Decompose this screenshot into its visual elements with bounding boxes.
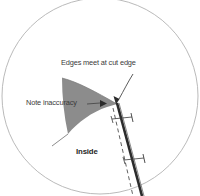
label-inside: Inside (76, 148, 98, 156)
label-note-inaccuracy: Note inaccuracy (26, 99, 77, 106)
cut-edge-joint-diagram: Edges meet at cut edge Note inaccuracy I… (0, 0, 200, 196)
label-edges-meet-at-cut-edge: Edges meet at cut edge (61, 59, 136, 66)
shaded-region-tail-line (52, 134, 68, 146)
leader-arrow-to-apex (114, 74, 134, 105)
